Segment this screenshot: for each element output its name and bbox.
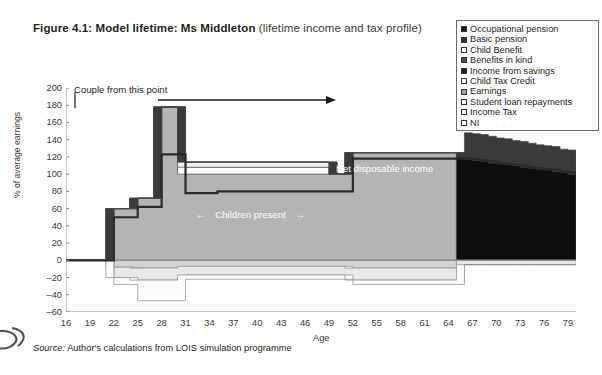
x-tick-label: 40 — [252, 318, 262, 328]
legend-swatch-icon — [461, 47, 467, 53]
x-tick-label: 61 — [419, 318, 429, 328]
x-tick-label: 22 — [109, 318, 119, 328]
x-tick-label: 37 — [228, 318, 238, 328]
x-tick-label: 46 — [300, 318, 310, 328]
negative-stacked-areas — [66, 260, 576, 300]
x-axis-ticks: 1619222528313437404346495255586164677073… — [0, 318, 602, 332]
legend-item[interactable]: Benefits in kind — [461, 55, 595, 65]
x-tick-label: 43 — [276, 318, 286, 328]
legend-item-label: Child Benefit — [470, 45, 522, 55]
legend-item-label: Income from savings — [470, 66, 555, 76]
legend-item[interactable]: NI — [461, 118, 595, 128]
children-right-arrow-icon: → — [295, 209, 305, 220]
chart-legend: Occupational pensionBasic pensionChild B… — [456, 20, 599, 131]
source-text: Author's calculations from LOIS simulati… — [67, 343, 291, 353]
legend-item-label: Basic pension — [470, 34, 527, 44]
x-axis-title: Age — [313, 333, 330, 343]
x-tick-label: 58 — [396, 318, 406, 328]
x-tick-label: 67 — [467, 318, 477, 328]
legend-swatch-icon — [461, 57, 467, 63]
legend-item[interactable]: Earnings — [461, 86, 595, 96]
legend-swatch-icon — [461, 37, 467, 43]
legend-item-label: Benefits in kind — [470, 55, 532, 65]
x-tick-label: 34 — [204, 318, 214, 328]
annotation-net-disposable-income: Net disposable income — [336, 163, 433, 174]
legend-swatch-icon — [461, 109, 467, 115]
legend-item-label: Child Tax Credit — [470, 76, 535, 86]
legend-item-label: Income Tax — [470, 107, 517, 117]
legend-item-label: Occupational pension — [470, 24, 558, 34]
figure-title-sub: (lifetime income and tax profile) — [259, 22, 422, 34]
x-tick-label: 31 — [180, 318, 190, 328]
legend-item[interactable]: Child Benefit — [461, 45, 595, 55]
legend-item-label: Student loan repayments — [470, 97, 572, 107]
x-tick-label: 76 — [539, 318, 549, 328]
publisher-logo-icon — [0, 300, 44, 356]
x-tick-label: 52 — [348, 318, 358, 328]
legend-swatch-icon — [461, 26, 467, 32]
legend-swatch-icon — [461, 78, 467, 84]
legend-item[interactable]: Basic pension — [461, 34, 595, 44]
x-tick-label: 49 — [324, 318, 334, 328]
legend-swatch-icon — [461, 99, 467, 105]
legend-item-label: Earnings — [470, 86, 506, 96]
x-tick-label: 55 — [372, 318, 382, 328]
legend-item[interactable]: Student loan repayments — [461, 97, 595, 107]
x-tick-label: 64 — [443, 318, 453, 328]
legend-swatch-icon — [461, 120, 467, 126]
legend-item[interactable]: Occupational pension — [461, 24, 595, 34]
couple-start-marker — [74, 92, 77, 108]
y-axis-title-wrap: % of average earnings — [26, 60, 46, 320]
y-axis-title: % of average earnings — [12, 112, 22, 198]
legend-item[interactable]: Income Tax — [461, 107, 595, 117]
annotation-couple-from-this-point: Couple from this point — [74, 84, 167, 95]
x-tick-label: 79 — [563, 318, 573, 328]
x-tick-label: 28 — [156, 318, 166, 328]
x-tick-label: 19 — [85, 318, 95, 328]
couple-arrow-icon — [158, 94, 336, 106]
x-tick-label: 70 — [491, 318, 501, 328]
legend-item-label: NI — [470, 118, 479, 128]
figure-title: Figure 4.1: Model lifetime: Ms Middleton… — [33, 22, 422, 34]
children-left-arrow-icon: ← — [196, 209, 206, 220]
source-note: Source: Author's calculations from LOIS … — [33, 343, 292, 353]
x-tick-label: 16 — [61, 318, 71, 328]
figure-title-main: Model lifetime: Ms Middleton — [96, 22, 256, 34]
x-tick-label: 73 — [515, 318, 525, 328]
legend-item[interactable]: Child Tax Credit — [461, 76, 595, 86]
x-tick-label: 25 — [133, 318, 143, 328]
legend-swatch-icon — [461, 89, 467, 95]
annotation-children-present: ← Children present → — [196, 209, 305, 220]
children-present-label: Children present — [208, 209, 292, 220]
legend-swatch-icon — [461, 68, 467, 74]
legend-item[interactable]: Income from savings — [461, 66, 595, 76]
